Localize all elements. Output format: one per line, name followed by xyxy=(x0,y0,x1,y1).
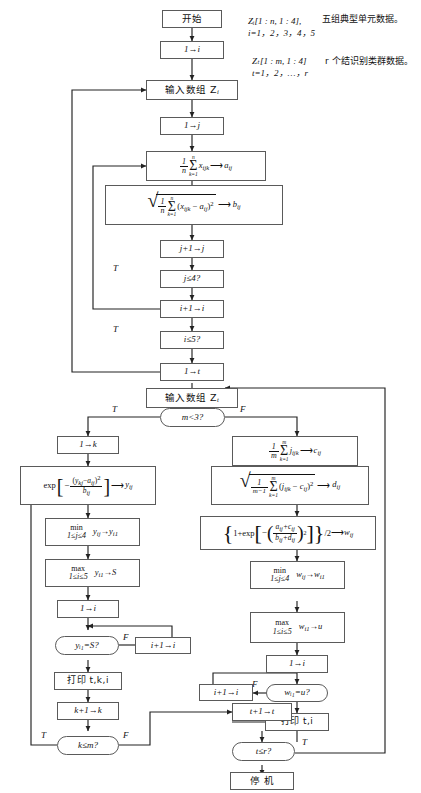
node-test-j-label: j≤4? xyxy=(184,274,200,283)
node-calc-c-formula: 1m mΣk=1 jijk ⟶ cij xyxy=(269,440,321,462)
node-calc-d[interactable]: 1m−1 mΣk=1 (jijk − cij)2 ⟶ dij xyxy=(211,466,369,505)
node-test-i1-label: i≤5? xyxy=(184,335,200,344)
node-print-tki-label: 打印 t,k,i xyxy=(67,676,109,685)
node-calc-y[interactable]: exp [ − (ykj−aij)2 bij ] ⟶ yij xyxy=(20,466,156,505)
node-start-label: 开始 xyxy=(182,14,203,24)
max-w-range: 1≤i≤5 xyxy=(273,628,292,636)
node-calc-y-formula: exp [ − (ykj−aij)2 bij ] ⟶ yij xyxy=(43,475,132,496)
node-min-y-content: min 1≤j≤4 yij→yi1 xyxy=(67,524,118,541)
node-stop[interactable]: 停 机 xyxy=(230,772,294,790)
node-inc-k-label: k+1→k xyxy=(74,706,102,715)
node-test-j[interactable]: j≤4? xyxy=(160,270,224,288)
node-print-tki[interactable]: 打印 t,k,i xyxy=(54,672,122,690)
node-max-w-content: max 1≤i≤5 wi1→u xyxy=(273,619,323,636)
node-stop-label: 停 机 xyxy=(250,776,275,786)
node-init-k-label: 1→k xyxy=(79,440,97,449)
node-calc-b[interactable]: 1n nΣk=1 (xijk − aij)2 ⟶ bij xyxy=(105,185,283,225)
node-init-j[interactable]: 1→j xyxy=(160,117,224,135)
node-init-i3[interactable]: 1→i xyxy=(266,655,328,673)
node-max-y-content: max 1≤i≤5 yi1→S xyxy=(69,565,117,582)
node-init-j-label: 1→j xyxy=(184,121,200,130)
node-calc-w-formula: { 1+exp [ − ( aij+cij bij+dij )2 ] } /2 … xyxy=(223,523,354,542)
node-inc-i2[interactable]: i+1→i xyxy=(135,637,191,654)
node-input-zt[interactable]: 输入数组 Zt xyxy=(146,388,238,408)
node-test-w[interactable]: wᵢ₁=u? xyxy=(266,684,328,702)
label-test-m-false: F xyxy=(240,404,246,414)
node-inc-t-label: t+1→t xyxy=(250,707,275,716)
node-inc-i1[interactable]: i+1→i xyxy=(160,300,224,318)
node-input-zt-sub: t xyxy=(217,395,219,402)
node-inc-i3-label: i+1→i xyxy=(214,688,239,697)
node-calc-w[interactable]: { 1+exp [ − ( aij+cij bij+dij )2 ] } /2 … xyxy=(200,516,376,550)
node-input-zt-label: 输入数组 Z xyxy=(165,393,218,403)
node-input-zi[interactable]: 输入数组 Zi xyxy=(146,80,238,100)
node-inc-k[interactable]: k+1→k xyxy=(57,702,119,720)
note-zt: Zₜ[1 : m, 1 : 4] r 个结识别类群数据。 t=1，2，…，r xyxy=(252,56,308,79)
node-max-y[interactable]: max 1≤i≤5 yi1→S xyxy=(45,559,140,587)
node-test-k[interactable]: k≤m? xyxy=(57,736,119,755)
node-init-t[interactable]: 1→t xyxy=(160,363,224,381)
min-w-range: 1≤j≤4 xyxy=(270,575,289,583)
note-zi-line1: Zᵢ[1 : n, 1 : 4], xyxy=(248,16,301,26)
min-y-range: 1≤j≤4 xyxy=(67,532,86,540)
node-start[interactable]: 开始 xyxy=(162,10,222,28)
node-inc-j[interactable]: j+1→j xyxy=(160,240,224,258)
label-test-k-false: F xyxy=(123,730,129,740)
note-zt-desc: r 个结识别类群数据。 xyxy=(325,54,413,67)
node-init-i[interactable]: 1→i xyxy=(160,41,224,59)
label-test-y-false: F xyxy=(123,632,129,642)
node-calc-c[interactable]: 1m mΣk=1 jijk ⟶ cij xyxy=(232,436,358,466)
node-test-y-label: yᵢ₁=S? xyxy=(75,641,99,650)
node-min-w-content: min 1≤j≤4 wij→wi1 xyxy=(270,567,325,584)
note-zt-line2: t=1，2，…，r xyxy=(252,68,308,78)
node-max-w[interactable]: max 1≤i≤5 wi1→u xyxy=(250,612,345,643)
label-test-k-true: T xyxy=(41,730,46,740)
node-inc-i3[interactable]: i+1→i xyxy=(199,684,253,701)
node-input-zi-label: 输入数组 Z xyxy=(165,85,218,95)
note-zi-desc: 五组典型单元数据。 xyxy=(322,12,403,25)
node-min-y[interactable]: min 1≤j≤4 yij→yi1 xyxy=(45,518,140,546)
node-test-k-label: k≤m? xyxy=(78,741,98,750)
node-calc-a[interactable]: 1n nΣk=1 xijk ⟶ aij xyxy=(146,151,266,181)
max-y-range: 1≤i≤5 xyxy=(69,573,88,581)
node-init-i2-label: 1→i xyxy=(80,604,96,613)
label-test-t-true: T xyxy=(302,737,307,747)
node-test-m[interactable]: m<3? xyxy=(160,408,225,427)
node-inc-t[interactable]: t+1→t xyxy=(232,703,292,721)
node-test-t[interactable]: t≤r? xyxy=(232,742,295,761)
node-inc-i2-label: i+1→i xyxy=(151,641,176,650)
label-test-m-true: T xyxy=(112,404,117,414)
node-init-i-label: 1→i xyxy=(184,45,200,54)
node-test-i1[interactable]: i≤5? xyxy=(160,331,224,349)
note-zi: Zᵢ[1 : n, 1 : 4], 五组典型单元数据。 i=1，2，3，4，5 xyxy=(248,16,315,39)
node-min-w[interactable]: min 1≤j≤4 wij→wi1 xyxy=(250,561,345,589)
node-calc-a-formula: 1n nΣk=1 xijk ⟶ aij xyxy=(180,155,232,177)
node-test-w-label: wᵢ₁=u? xyxy=(284,688,310,697)
node-init-k[interactable]: 1→k xyxy=(57,436,119,454)
note-zi-line2: i=1，2，3，4，5 xyxy=(248,28,315,38)
node-inc-i1-label: i+1→i xyxy=(180,304,205,313)
note-zt-line1: Zₜ[1 : m, 1 : 4] xyxy=(252,56,307,66)
node-test-y[interactable]: yᵢ₁=S? xyxy=(55,636,119,655)
node-test-t-label: t≤r? xyxy=(256,747,271,756)
node-calc-d-formula: 1m−1 mΣk=1 (jijk − cij)2 ⟶ dij xyxy=(240,473,341,498)
node-inc-j-label: j+1→j xyxy=(180,244,205,253)
label-test-j-true: T xyxy=(113,263,118,273)
label-test-i1-true: T xyxy=(113,324,118,334)
node-init-t-label: 1→t xyxy=(184,367,200,376)
node-input-zi-sub: i xyxy=(217,87,219,94)
node-init-i2[interactable]: 1→i xyxy=(57,600,119,618)
node-init-i3-label: 1→i xyxy=(289,659,305,668)
node-calc-b-formula: 1n nΣk=1 (xijk − aij)2 ⟶ bij xyxy=(147,193,240,218)
node-test-m-label: m<3? xyxy=(182,413,204,422)
